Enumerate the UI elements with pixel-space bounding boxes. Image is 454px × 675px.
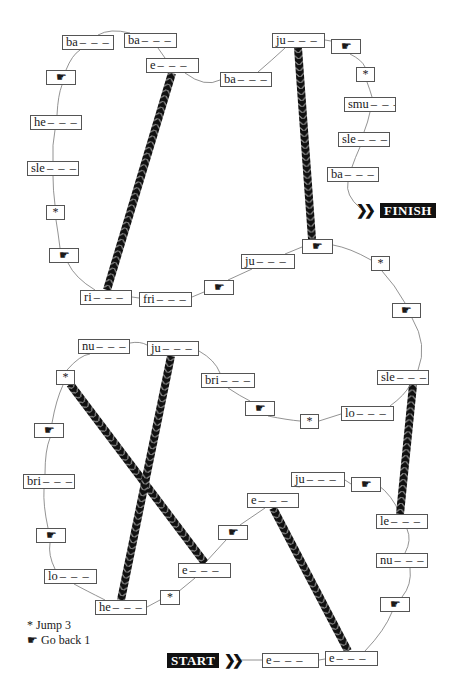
square-go-back[interactable]: ☛	[49, 248, 79, 263]
blank-dashes: – – –	[357, 406, 387, 420]
asterisk-icon: *	[167, 590, 173, 604]
pointing-hand-icon: ☛	[401, 303, 412, 317]
square-sle[interactable]: sle– – –	[338, 132, 390, 147]
square-ju[interactable]: ju– – –	[147, 341, 199, 356]
pointing-hand-icon: ☛	[361, 477, 372, 491]
square-sle[interactable]: sle– – –	[27, 161, 79, 176]
rope-ju-to-he	[117, 355, 175, 601]
word-prefix: he	[99, 600, 111, 614]
square-sle[interactable]: sle– – –	[377, 370, 429, 385]
blank-dashes: – – –	[80, 35, 110, 49]
square-jump[interactable]: *	[46, 205, 65, 220]
square-ri[interactable]: ri– – –	[80, 290, 132, 305]
asterisk-icon: *	[307, 414, 313, 428]
square-go-back[interactable]: ☛	[218, 525, 248, 540]
square-ba[interactable]: ba– – –	[62, 35, 114, 50]
square-lo[interactable]: lo– – –	[341, 406, 394, 421]
word-prefix: ba	[224, 72, 236, 86]
blank-dashes: – – –	[60, 569, 90, 583]
pointing-hand-icon: ☛	[341, 39, 352, 53]
pointing-hand-icon: ☛	[312, 239, 323, 253]
word-prefix: ri	[84, 290, 92, 304]
pointing-hand-icon: ☛	[390, 597, 401, 611]
jump-icon: *	[27, 618, 33, 632]
word-prefix: nu	[380, 553, 393, 567]
square-jump[interactable]: *	[160, 590, 180, 605]
pointing-hand-icon: ☛	[255, 401, 266, 415]
word-prefix: e	[251, 493, 257, 507]
square-go-back[interactable]: ☛	[331, 39, 361, 54]
word-prefix: e	[266, 653, 272, 667]
word-prefix: ju	[295, 472, 305, 486]
square-jump[interactable]: *	[56, 370, 75, 385]
word-prefix: smu	[348, 97, 369, 111]
square-ju[interactable]: ju– – –	[272, 33, 325, 48]
square-e[interactable]: e– – –	[178, 563, 231, 578]
word-prefix: lo	[48, 569, 58, 583]
square-bri[interactable]: bri– – –	[23, 474, 75, 489]
word-prefix: nu	[82, 339, 95, 353]
word-prefix: bri	[27, 474, 41, 488]
square-bri[interactable]: bri– – –	[201, 373, 255, 388]
square-e[interactable]: e– – –	[247, 493, 299, 508]
square-fri[interactable]: fri– – –	[139, 292, 192, 307]
word-prefix: e	[329, 651, 335, 665]
square-ju[interactable]: ju– – –	[241, 254, 295, 269]
square-jump[interactable]: *	[356, 67, 375, 82]
word-prefix: le	[380, 514, 389, 528]
word-prefix: sle	[31, 161, 45, 175]
blank-dashes: – – –	[113, 600, 143, 614]
blank-dashes: – – –	[190, 563, 220, 577]
square-ju[interactable]: ju– – –	[291, 472, 345, 487]
blank-dashes: – – –	[163, 341, 193, 355]
square-he[interactable]: he– – –	[30, 115, 82, 130]
square-go-back[interactable]: ☛	[34, 423, 64, 438]
square-go-back[interactable]: ☛	[46, 70, 76, 85]
square-e[interactable]: e– – –	[262, 653, 319, 668]
square-ba[interactable]: ba– – –	[124, 33, 177, 48]
square-nu[interactable]: nu– – –	[78, 339, 130, 354]
word-prefix: lo	[345, 406, 355, 420]
legend-back-text: Go back 1	[41, 633, 90, 647]
square-go-back[interactable]: ☛	[302, 239, 333, 254]
square-go-back[interactable]: ☛	[392, 303, 421, 318]
square-ba[interactable]: ba– – –	[327, 167, 379, 182]
word-prefix: fri	[143, 292, 155, 306]
square-he[interactable]: he– – –	[95, 600, 147, 615]
pointing-hand-icon: ☛	[59, 248, 70, 262]
square-le[interactable]: le– – –	[376, 514, 428, 529]
square-go-back[interactable]: ☛	[36, 528, 66, 543]
rope-ju-to-hand	[294, 48, 316, 240]
asterisk-icon: *	[363, 67, 369, 81]
square-jump[interactable]: *	[300, 414, 319, 429]
blank-dashes: – – –	[391, 514, 421, 528]
blank-dashes: – – –	[274, 653, 304, 667]
square-e[interactable]: e– – –	[146, 58, 199, 73]
square-go-back[interactable]: ☛	[380, 597, 410, 612]
square-go-back[interactable]: ☛	[245, 401, 275, 416]
word-prefix: he	[34, 115, 46, 129]
word-prefix: sle	[342, 132, 356, 146]
square-smu[interactable]: smu– – –	[344, 97, 396, 112]
blank-dashes: – – –	[345, 167, 375, 181]
square-go-back[interactable]: ☛	[351, 477, 381, 492]
pointing-hand-icon: ☛	[27, 633, 38, 647]
pointing-hand-icon: ☛	[56, 70, 67, 84]
square-e[interactable]: e– – –	[325, 651, 378, 666]
legend-item-jump: * Jump 3	[27, 618, 90, 633]
blank-dashes: – – –	[43, 474, 73, 488]
word-prefix: ju	[276, 33, 286, 47]
blank-dashes: – – –	[238, 72, 268, 86]
square-nu[interactable]: nu– – –	[376, 553, 428, 568]
pointing-hand-icon: ☛	[214, 280, 225, 294]
square-lo[interactable]: lo– – –	[44, 569, 97, 584]
square-ba[interactable]: ba– – –	[220, 72, 272, 87]
asterisk-icon: *	[53, 205, 59, 219]
square-go-back[interactable]: ☛	[204, 280, 234, 295]
word-prefix: ba	[128, 33, 140, 47]
word-prefix: ju	[151, 341, 161, 355]
blank-dashes: – – –	[307, 472, 337, 486]
blank-dashes: – – –	[257, 254, 287, 268]
square-jump[interactable]: *	[371, 256, 390, 271]
start-label: START	[167, 653, 219, 668]
